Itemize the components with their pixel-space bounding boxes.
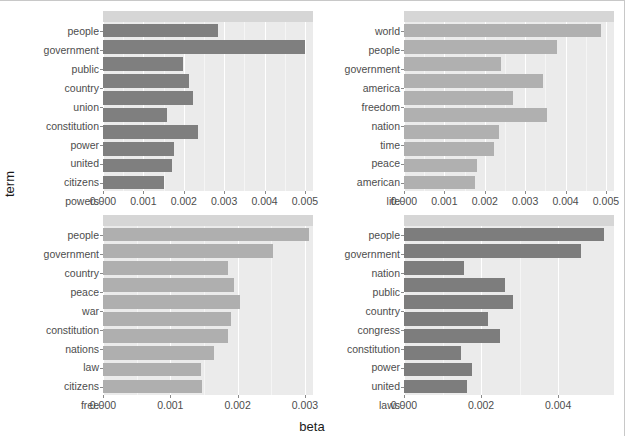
y-tick-label: nation: [371, 121, 400, 132]
plot-wrapper: 0.0000.0010.0020.003: [103, 226, 317, 415]
plot-area: [404, 226, 614, 395]
bar-row: [103, 176, 313, 190]
facet-panel-topic-3: peoplegovernmentcountrypeacewarconstitut…: [22, 215, 317, 415]
bar-row: [103, 295, 313, 309]
x-tick-mark: [404, 191, 405, 194]
y-tick-label: constitution: [46, 121, 99, 132]
bar-row: [103, 278, 313, 292]
bar-row: [103, 24, 313, 38]
facet-panel-grid: peoplegovernmentpubliccountryunionconsti…: [22, 11, 618, 415]
bar-row: [103, 142, 313, 156]
bar-row: [103, 329, 313, 343]
x-tick-label: 0.004: [552, 195, 578, 207]
y-tick-label: freedom: [361, 102, 400, 113]
bar: [103, 346, 214, 360]
plot-wrapper: 0.0000.0020.004: [404, 226, 618, 415]
y-tick-label: government: [345, 64, 400, 75]
plot-wrapper: 0.0000.0010.0020.0030.0040.005: [103, 22, 317, 211]
bar-row: [404, 125, 614, 139]
y-tick-label: power: [371, 362, 400, 373]
bar-row: [103, 74, 313, 88]
bar-row: [404, 244, 614, 258]
x-tick-mark: [485, 191, 486, 194]
bar: [404, 108, 547, 122]
y-tick-label: power: [70, 140, 99, 151]
x-tick-mark: [481, 395, 482, 398]
plot-area: [404, 22, 614, 191]
bar-row: [404, 40, 614, 54]
x-tick-label: 0.000: [90, 399, 116, 411]
bar-row: [103, 228, 313, 242]
bar: [404, 295, 513, 309]
bar: [103, 108, 167, 122]
bar: [103, 176, 164, 190]
x-axis-title: beta: [0, 419, 624, 434]
y-tick-label: world: [375, 26, 400, 37]
bar: [404, 312, 488, 326]
x-tick-mark: [184, 191, 185, 194]
y-tick-label: country: [366, 306, 400, 317]
panel-body: peoplegovernmentcountrypeacewarconstitut…: [22, 226, 317, 415]
bar: [103, 228, 309, 242]
x-tick-mark: [404, 395, 405, 398]
y-tick-label: government: [44, 249, 99, 260]
bar-row: [404, 278, 614, 292]
y-tick-label: government: [44, 45, 99, 56]
x-tick-label: 0.000: [391, 195, 417, 207]
x-tick-mark: [566, 191, 567, 194]
bar: [404, 261, 464, 275]
y-tick-label: people: [67, 26, 99, 37]
facet-strip-label: [103, 11, 313, 22]
y-tick-label: peace: [70, 287, 99, 298]
y-tick-label: people: [368, 230, 400, 241]
bar: [103, 40, 305, 54]
x-tick-label: 0.002: [468, 399, 494, 411]
y-tick-label: nations: [65, 344, 99, 355]
bar-row: [103, 40, 313, 54]
x-tick-mark: [606, 191, 607, 194]
y-tick-label: public: [72, 64, 99, 75]
x-tick-label: 0.000: [90, 195, 116, 207]
bar: [404, 142, 494, 156]
bar: [103, 295, 240, 309]
bar: [103, 312, 231, 326]
y-tick-label: congress: [357, 325, 400, 336]
y-tick-label: union: [73, 102, 99, 113]
y-tick-label: american: [357, 177, 400, 188]
x-axis: 0.0000.0010.0020.003: [103, 395, 313, 415]
x-tick-mark: [143, 191, 144, 194]
y-tick-label: people: [368, 45, 400, 56]
x-tick-label: 0.002: [224, 399, 250, 411]
y-tick-label-group: peoplegovernmentpubliccountryunionconsti…: [22, 22, 103, 211]
bar-row: [404, 142, 614, 156]
bar: [103, 74, 189, 88]
y-tick-label: america: [363, 83, 400, 94]
bar-row: [103, 244, 313, 258]
plot-area: [103, 22, 313, 191]
bar-row: [404, 91, 614, 105]
bar: [404, 40, 557, 54]
bar: [103, 159, 172, 173]
y-tick-label-group: worldpeoplegovernmentamericafreedomnatio…: [323, 22, 404, 211]
bar: [404, 329, 500, 343]
bar: [404, 244, 581, 258]
bar-row: [103, 125, 313, 139]
facet-panel-topic-1: peoplegovernmentpubliccountryunionconsti…: [22, 11, 317, 211]
y-tick-label: country: [65, 268, 99, 279]
bar: [103, 244, 273, 258]
x-tick-label: 0.001: [157, 399, 183, 411]
bar-row: [103, 91, 313, 105]
x-tick-mark: [558, 395, 559, 398]
bar: [404, 91, 513, 105]
bar-row: [404, 295, 614, 309]
bar: [103, 261, 228, 275]
facet-strip-label: [103, 215, 313, 226]
bar: [103, 24, 218, 38]
bar-row: [103, 312, 313, 326]
bar-row: [404, 176, 614, 190]
x-tick-mark: [238, 395, 239, 398]
bar-series: [103, 226, 313, 395]
facet-strip-label: [404, 215, 614, 226]
y-tick-label: people: [67, 230, 99, 241]
x-axis: 0.0000.0010.0020.0030.0040.005: [404, 191, 614, 211]
